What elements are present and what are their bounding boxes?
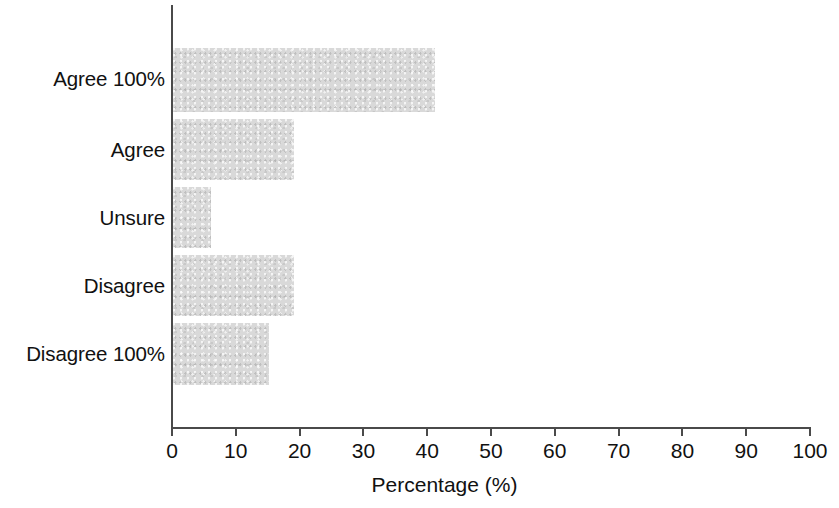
x-tick-mark (426, 428, 428, 436)
x-tick-label: 60 (543, 440, 566, 461)
x-tick-mark (618, 428, 620, 436)
x-tick-mark (681, 428, 683, 436)
x-tick-label: 90 (735, 440, 758, 461)
x-tick-label: 70 (607, 440, 630, 461)
bar-chart: Agree 100% Agree Unsure Disagree Disagre… (0, 0, 839, 508)
x-tick-mark (171, 428, 173, 436)
x-tick-mark (362, 428, 364, 436)
x-tick-mark (235, 428, 237, 436)
x-tick-mark (490, 428, 492, 436)
x-tick-label: 100 (792, 440, 827, 461)
x-axis-title-text: Percentage (%) (372, 474, 518, 495)
x-tick-mark (809, 428, 811, 436)
x-tick-label: 30 (352, 440, 375, 461)
x-tick-mark (554, 428, 556, 436)
x-tick-label: 0 (166, 440, 178, 461)
x-tick-label: 40 (416, 440, 439, 461)
x-axis-ticks: 0102030405060708090100 (0, 0, 839, 508)
x-tick-mark (745, 428, 747, 436)
x-axis-title: Percentage (%) (0, 474, 839, 495)
x-tick-label: 10 (224, 440, 247, 461)
x-tick-label: 50 (479, 440, 502, 461)
x-tick-label: 20 (288, 440, 311, 461)
x-tick-label: 80 (671, 440, 694, 461)
x-tick-mark (299, 428, 301, 436)
